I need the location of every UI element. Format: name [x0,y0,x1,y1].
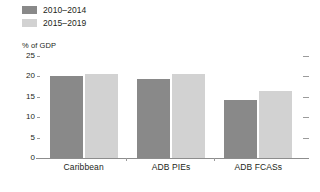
bar-2010-2014[interactable] [224,100,257,158]
x-axis-label-caribbean: Caribbean [40,162,127,173]
x-axis-baseline [36,158,309,159]
y-axis-tick-label: 5 [31,133,35,143]
bar-2015-2019[interactable] [259,91,292,158]
y-axis-tick-label: 15 [26,92,35,102]
y-axis-right-tick-mark-icon [303,97,309,98]
bar-group-caribbean: Caribbean [40,56,127,158]
legend-swatch-icon [22,6,37,14]
bar-2015-2019[interactable] [172,74,205,158]
bar-group-adb-fcass: ADB FCASs [215,56,302,158]
x-axis-tick-mark-icon [126,158,127,161]
x-axis-tick-mark-icon [214,158,215,161]
plot-area: 25 20 15 10 5 0 [40,56,302,158]
x-axis-label-adb-pies: ADB PIEs [127,162,214,173]
y-axis-right-tick-mark-icon [303,117,309,118]
legend-swatch-icon [22,19,37,27]
bar-groups: Caribbean ADB PIEs ADB FCASs [40,56,302,158]
y-axis-tick-label: 10 [26,112,35,122]
y-axis-right-tick-mark-icon [303,138,309,139]
legend-label: 2015–2019 [43,18,86,28]
legend-item-2010-2014: 2010–2014 [22,4,86,15]
y-axis-tick-label: 25 [26,51,35,61]
bar-2010-2014[interactable] [50,76,83,158]
y-axis-tick-label: 20 [26,71,35,81]
bar-chart: 2010–2014 2015–2019 % of GDP 25 20 15 10 [0,0,320,192]
y-axis-title: % of GDP [22,41,56,50]
bar-2015-2019[interactable] [85,74,118,158]
y-axis-right-tick-mark-icon [303,56,309,57]
bars [127,56,214,158]
legend-item-2015-2019: 2015–2019 [22,17,86,28]
y-axis-tick-label: 0 [31,153,35,163]
y-axis-right-tick-mark-icon [303,76,309,77]
bar-group-adb-pies: ADB PIEs [127,56,214,158]
x-axis-label-adb-fcass: ADB FCASs [215,162,302,173]
bars [215,56,302,158]
bars [40,56,127,158]
bar-2010-2014[interactable] [137,79,170,158]
legend-label: 2010–2014 [43,5,86,15]
chart-legend: 2010–2014 2015–2019 [22,4,86,28]
